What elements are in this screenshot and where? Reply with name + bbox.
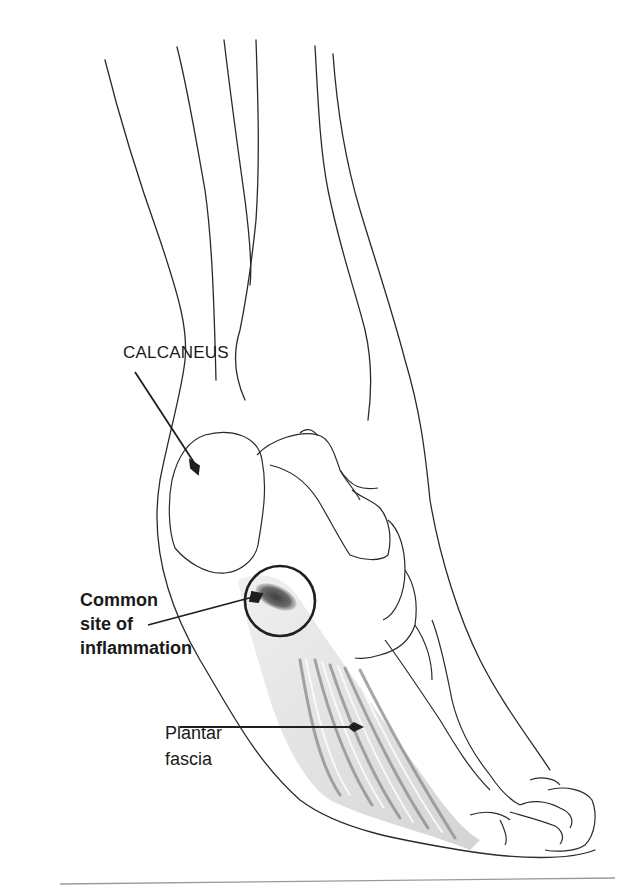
inflammation-label-line3: inflammation xyxy=(80,636,192,660)
plantar-fascia-label: Plantar fascia xyxy=(165,720,222,772)
plantar-fascia xyxy=(238,575,480,850)
calcaneus-leader xyxy=(135,372,195,464)
bottom-rule xyxy=(60,878,615,884)
calcaneus-label: CALCANEUS xyxy=(123,343,229,363)
inflammation-label-line1: Common xyxy=(80,588,192,612)
calcaneus-label-text: CALCANEUS xyxy=(123,343,229,363)
foot-anatomy-illustration xyxy=(0,0,630,896)
inflammation-label-line2: site of xyxy=(80,612,192,636)
inflammation-site-label: Common site of inflammation xyxy=(80,588,192,660)
plantar-fascia-label-line2: fascia xyxy=(165,746,222,772)
calcaneus-arrowhead xyxy=(190,460,199,474)
plantar-fascia-label-line1: Plantar xyxy=(165,720,222,746)
